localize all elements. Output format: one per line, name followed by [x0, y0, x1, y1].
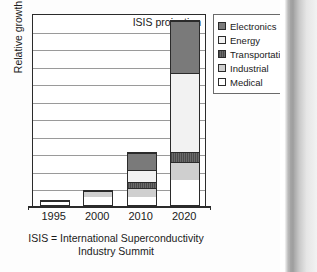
legend-item-medical: Medical [218, 75, 287, 89]
legend-item-industrial: Industrial [218, 61, 287, 75]
bar-segment-electronics [128, 153, 156, 170]
legend-label: Industrial [230, 63, 269, 74]
figure-root: Relative growth ISIS projection 19952000… [0, 0, 317, 272]
x-tick-label-2020: 2020 [164, 210, 204, 222]
x-tick-label-2010: 2010 [121, 210, 161, 222]
x-axis-end-tick [28, 206, 29, 210]
electronics-swatch [218, 22, 226, 30]
x-axis-end-tick [210, 206, 211, 210]
bar-2020 [170, 20, 200, 206]
scan-fold-line [290, 0, 294, 272]
x-tick-label-1995: 1995 [34, 210, 74, 222]
x-axis-tick-labels: 1995200020102020 [32, 210, 206, 226]
legend-label: Medical [230, 77, 263, 88]
y-axis-label-wrap: Relative growth [14, 30, 30, 180]
x-axis-line [28, 206, 210, 208]
bar-segment-medical [84, 197, 112, 205]
figure-caption: ISIS = International Superconductivity I… [16, 232, 216, 258]
bars-container [33, 15, 205, 206]
bar-segment-medical [171, 180, 199, 205]
bar-segment-industrial [171, 162, 199, 180]
bar-segment-industrial [128, 188, 156, 197]
bar-segment-medical [41, 202, 69, 205]
bar-segment-transportation [171, 152, 199, 162]
y-axis-label: Relative growth [12, 0, 24, 92]
bar-segment-medical [128, 197, 156, 205]
legend-label: Electronics [230, 21, 276, 32]
caption-line-2: Industry Summit [16, 245, 216, 258]
transportation-swatch [218, 50, 226, 58]
caption-line-1: ISIS = International Superconductivity [16, 232, 216, 245]
legend-item-electronics: Electronics [218, 19, 287, 33]
medical-swatch [218, 78, 226, 86]
x-tick-label-2000: 2000 [77, 210, 117, 222]
bar-segment-energy [171, 73, 199, 152]
scan-edge-artifact [280, 0, 317, 272]
bar-segment-electronics [171, 21, 199, 73]
legend-label: Energy [230, 35, 260, 46]
bar-2000 [83, 190, 113, 206]
bar-segment-energy [128, 170, 156, 183]
legend-item-transportation: Transportation [218, 47, 287, 61]
bar-2010 [127, 152, 157, 206]
industrial-swatch [218, 64, 226, 72]
plot-area: ISIS projection [32, 14, 206, 207]
legend-item-energy: Energy [218, 33, 287, 47]
energy-swatch [218, 36, 226, 44]
